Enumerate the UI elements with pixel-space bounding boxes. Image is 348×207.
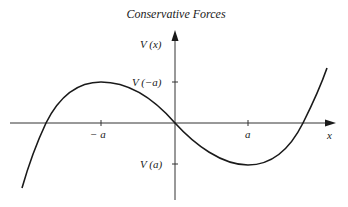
y-axis-arrow-icon <box>172 30 179 41</box>
x-axis-label: x <box>326 129 332 141</box>
x-axis-arrow-icon <box>325 120 336 127</box>
tick-label-minus-a: − a <box>90 128 106 140</box>
y-axis-label: V (x) <box>140 38 162 51</box>
tick-label-v-minus-a: V (−a) <box>132 76 162 89</box>
y-axis <box>172 30 179 200</box>
potential-energy-diagram: V (x) x − a a V (−a) V (a) <box>0 0 348 207</box>
tick-label-v-a: V (a) <box>140 158 162 171</box>
tick-label-a: a <box>245 128 251 140</box>
